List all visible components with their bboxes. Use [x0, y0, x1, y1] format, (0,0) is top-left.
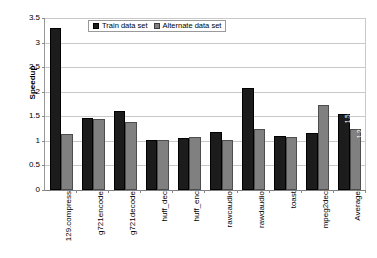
x-axis-tick-label: 129.compress — [64, 191, 73, 241]
bar-value-label: 1.54 — [344, 111, 351, 124]
x-axis-tick-label-text: Average — [353, 191, 362, 221]
legend-label: Train data set — [102, 22, 148, 30]
x-axis-tick-label-text: g721encode — [96, 191, 105, 235]
y-axis-tick-label: 2.5 — [18, 63, 40, 71]
bar-train — [274, 136, 286, 190]
x-axis-tick-label: g721encode — [96, 191, 105, 235]
y-axis-tick-label: 0.5 — [18, 161, 40, 169]
legend-swatch-icon — [154, 23, 160, 29]
bar-train — [82, 118, 94, 190]
x-axis-tick-label-text: huff_enc — [192, 191, 201, 222]
bar-group — [173, 18, 205, 190]
bar-train — [146, 140, 158, 190]
bar-group — [141, 18, 173, 190]
x-axis-tick-label-text: rawcaudio — [225, 191, 234, 227]
x-axis-tick — [365, 190, 366, 193]
bar-group — [270, 18, 302, 190]
bar-group — [206, 18, 238, 190]
x-axis-tick-label-text: 129.compress — [64, 191, 73, 241]
bar-alternate — [318, 105, 330, 191]
bar-group — [45, 18, 77, 190]
bar-train — [242, 88, 254, 190]
x-axis-tick-label: huff_enc — [192, 191, 201, 222]
x-axis-tick-label-text: toast — [289, 191, 298, 208]
legend-label: Alternate data set — [163, 22, 222, 30]
bar-alternate — [222, 140, 234, 190]
bar-group — [77, 18, 109, 190]
x-axis-tick-label: huff_dec — [160, 191, 169, 222]
bar-train: 1.54 — [338, 114, 350, 190]
y-axis-tick-labels: 3.532.521.510.50 — [16, 0, 40, 258]
x-axis-tick-label-text: g721decode — [128, 191, 137, 235]
bar-train — [178, 138, 190, 190]
y-axis-tick-label: 1 — [18, 137, 40, 145]
x-axis-tick-label-text: mpeg2dec — [321, 191, 330, 228]
legend-swatch-icon — [93, 23, 99, 29]
legend-entry: Train data set — [93, 22, 148, 30]
y-axis-tick-label: 1.5 — [18, 112, 40, 120]
y-axis-tick-label: 3 — [18, 39, 40, 47]
bar-group — [109, 18, 141, 190]
y-axis-tick-label: 0 — [18, 186, 40, 194]
y-axis-tick-label: 3.5 — [18, 14, 40, 22]
bar-alternate — [61, 134, 73, 190]
bar-alternate: 1.25 — [350, 129, 362, 190]
bar-alternate — [125, 122, 137, 190]
legend-entry: Alternate data set — [154, 22, 222, 30]
bar-group — [302, 18, 334, 190]
bar-group: 1.541.25 — [334, 18, 366, 190]
bar-train — [210, 132, 222, 190]
bar-value-label: 1.25 — [356, 125, 363, 138]
speedup-bar-chart: Speedup 3.532.521.510.50 1.541.25 129.co… — [0, 0, 377, 258]
bar-train — [114, 111, 126, 190]
bar-group — [238, 18, 270, 190]
x-axis-tick-label: rawdaudio — [257, 191, 266, 228]
y-axis-tick-label: 2 — [18, 88, 40, 96]
x-axis-tick-label: g721decode — [128, 191, 137, 235]
x-axis-tick-labels: 129.compressg721encodeg721decodehuff_dec… — [44, 191, 365, 258]
x-axis-tick-label-text: huff_dec — [160, 191, 169, 222]
chart-legend: Train data setAlternate data set — [88, 20, 226, 32]
bar-train — [50, 28, 62, 190]
bar-alternate — [286, 137, 298, 190]
bar-alternate — [93, 119, 105, 190]
x-axis-tick-label: mpeg2dec — [321, 191, 330, 228]
plot-area: 1.541.25 — [44, 18, 366, 191]
bar-alternate — [189, 137, 201, 190]
x-axis-tick-label-text: rawdaudio — [257, 191, 266, 228]
bar-alternate — [254, 129, 266, 190]
bar-alternate — [157, 140, 169, 190]
x-axis-tick-label: rawcaudio — [225, 191, 234, 227]
x-axis-tick-label: toast — [289, 191, 298, 208]
bar-train — [306, 133, 318, 190]
x-axis-tick-label: Average — [353, 191, 362, 221]
